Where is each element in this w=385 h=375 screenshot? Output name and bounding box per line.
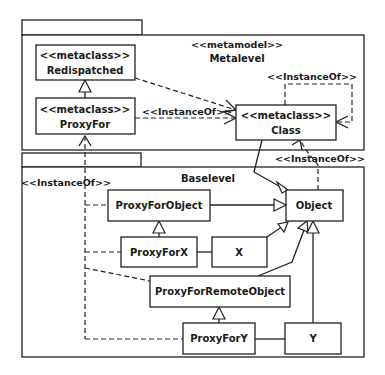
class-x[interactable]: X <box>212 237 267 267</box>
class-proxyfor[interactable]: <<metaclass>> ProxyFor <box>36 98 135 134</box>
class-name: ProxyFor <box>60 119 110 130</box>
stereotype-label: <<metaclass>> <box>40 50 130 61</box>
class-name: ProxyForX <box>130 247 188 258</box>
class-name: ProxyForY <box>190 333 248 344</box>
class-y[interactable]: Y <box>285 323 341 354</box>
metalevel-stereotype: <<metamodel>> <box>191 39 283 50</box>
instanceof-label-base-proxyfor: <<InstanceOf>> <box>21 177 111 188</box>
class-name: Object <box>296 200 333 211</box>
baselevel-name: Baselevel <box>181 173 235 184</box>
instanceof-label-object-class: <<InstanceOf>> <box>275 153 365 164</box>
class-name: Class <box>271 125 300 136</box>
metalevel-package-tab <box>22 20 142 35</box>
class-redispatched[interactable]: <<metaclass>> Redispatched <box>36 45 135 80</box>
class-object[interactable]: Object <box>286 190 343 221</box>
baselevel-package-tab <box>22 153 141 167</box>
class-name: Y <box>308 333 317 344</box>
class-proxyfory[interactable]: ProxyForY <box>183 323 255 354</box>
metalevel-name: Metalevel <box>209 53 264 64</box>
class-name: ProxyForRemoteObject <box>155 286 285 297</box>
class-proxyforx[interactable]: ProxyForX <box>121 237 197 267</box>
stereotype-label: <<metaclass>> <box>40 104 130 115</box>
uml-diagram: <<metamodel>> Metalevel Baselevel <<Inst… <box>0 0 385 375</box>
stereotype-label: <<metaclass>> <box>241 110 331 121</box>
class-name: X <box>235 247 243 258</box>
class-name: ProxyForObject <box>116 200 203 211</box>
class-name: Redispatched <box>47 65 124 76</box>
instanceof-label-proxyfor-class: <<InstanceOf>> <box>142 106 232 117</box>
class-proxyforremoteobject[interactable]: ProxyForRemoteObject <box>150 276 290 307</box>
instanceof-label-class-self: <<InstanceOf>> <box>267 71 357 82</box>
class-class[interactable]: <<metaclass>> Class <box>236 105 336 140</box>
class-proxyforobject[interactable]: ProxyForObject <box>108 190 210 221</box>
